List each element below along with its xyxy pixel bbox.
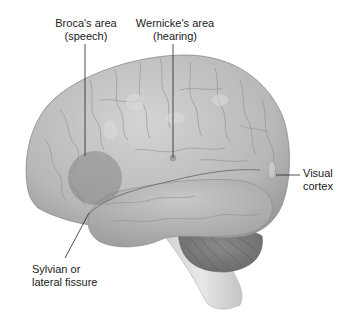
cerebrum (26, 55, 289, 247)
label-visual-line2: cortex (303, 180, 333, 193)
label-broca-area: Broca's area (speech) (53, 17, 119, 43)
label-visual-cortex: Visual cortex (303, 167, 333, 193)
label-sylvian-fissure: Sylvian or lateral fissure (32, 263, 97, 289)
label-wernicke-line2: (hearing) (135, 30, 215, 43)
brain-diagram: Broca's area (speech) Wernicke's area (h… (0, 0, 347, 323)
label-broca-line1: Broca's area (53, 17, 119, 30)
broca-area-highlight (68, 151, 122, 205)
label-wernicke-line1: Wernicke's area (135, 17, 215, 30)
label-sylvian-line2: lateral fissure (32, 276, 97, 289)
label-broca-line2: (speech) (53, 30, 119, 43)
label-sylvian-line1: Sylvian or (32, 263, 97, 276)
label-visual-line1: Visual (303, 167, 333, 180)
label-wernicke-area: Wernicke's area (hearing) (135, 17, 215, 43)
